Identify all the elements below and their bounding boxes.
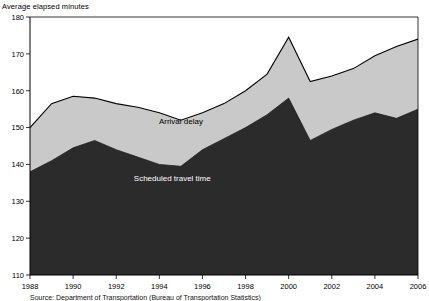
stacked-area-chart: 110120130140150160170180 198819901992199… — [0, 0, 429, 301]
x-tick-label: 2000 — [280, 282, 297, 291]
x-tick-label: 2002 — [323, 282, 340, 291]
plot-area: 110120130140150160170180 198819901992199… — [0, 0, 429, 301]
x-tick-label: 1990 — [65, 282, 82, 291]
x-tick-label: 2006 — [410, 282, 427, 291]
x-tick-label: 1988 — [22, 282, 39, 291]
x-tick-label: 1998 — [237, 282, 254, 291]
y-tick-label: 130 — [11, 197, 24, 206]
x-tick-label: 2004 — [367, 282, 384, 291]
y-axis-ticks: 110120130140150160170180 — [11, 13, 30, 280]
y-tick-label: 150 — [11, 123, 24, 132]
source-note: Source: Department of Transportation (Bu… — [30, 294, 261, 301]
y-tick-label: 120 — [11, 234, 24, 243]
series-annotation-label: Scheduled travel time — [134, 174, 211, 183]
series-annotation-label: Arrival delay — [159, 117, 203, 126]
chart-figure: Average elapsed minutes 1101201301401501… — [0, 0, 429, 301]
x-axis-ticks: 1988199019921994199619982000200220042006 — [22, 275, 427, 291]
y-tick-label: 170 — [11, 50, 24, 59]
y-tick-label: 180 — [11, 13, 24, 22]
x-tick-label: 1994 — [151, 282, 168, 291]
y-tick-label: 110 — [12, 271, 24, 280]
y-tick-label: 140 — [11, 160, 24, 169]
y-tick-label: 160 — [11, 87, 24, 96]
x-tick-label: 1996 — [194, 282, 211, 291]
x-tick-label: 1992 — [108, 282, 125, 291]
